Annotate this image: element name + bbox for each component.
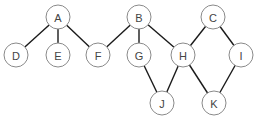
node-a: A — [46, 5, 70, 29]
node-g: G — [127, 43, 151, 67]
node-label: I — [239, 50, 242, 62]
node-c: C — [201, 5, 225, 29]
node-label: F — [95, 50, 102, 62]
node-h: H — [171, 43, 195, 67]
node-b: B — [127, 5, 151, 29]
node-label: D — [12, 50, 20, 62]
node-label: C — [209, 12, 217, 24]
node-label: E — [54, 50, 61, 62]
graph-diagram: ABCDEFGHIJK — [0, 0, 254, 118]
node-label: B — [135, 12, 142, 24]
node-label: H — [179, 50, 187, 62]
node-label: A — [54, 12, 62, 24]
node-f: F — [86, 43, 110, 67]
node-j: J — [150, 91, 174, 115]
node-label: G — [135, 50, 144, 62]
node-i: I — [229, 43, 253, 67]
node-d: D — [4, 43, 28, 67]
node-label: K — [210, 98, 218, 110]
node-e: E — [46, 43, 70, 67]
node-k: K — [202, 91, 226, 115]
nodes-layer: ABCDEFGHIJK — [4, 5, 253, 115]
node-label: J — [159, 98, 165, 110]
